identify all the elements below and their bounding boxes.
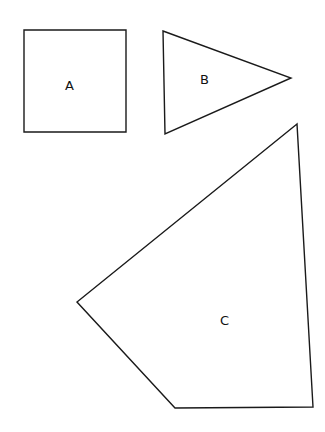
triangle-b	[163, 31, 291, 134]
shapes-diagram: A B C	[0, 0, 325, 432]
square-a	[24, 30, 126, 132]
label-c: C	[220, 313, 229, 328]
label-a: A	[65, 78, 74, 93]
quadrilateral-c	[77, 124, 313, 408]
label-b: B	[200, 72, 209, 87]
